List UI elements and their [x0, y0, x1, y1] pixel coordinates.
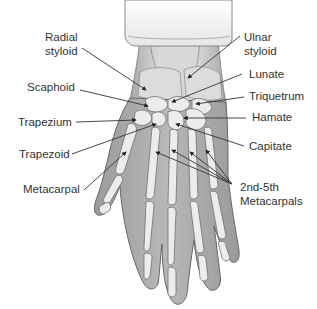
trapezium-bone — [134, 110, 152, 125]
label-triquetrum: Triquetrum — [249, 89, 304, 103]
label-ulnar-styloid: Ulnar styloid — [244, 30, 277, 58]
label-scaphoid: Scaphoid — [27, 80, 75, 94]
label-2nd-5th-metacarpals: 2nd-5th Metacarpals — [240, 180, 303, 208]
label-metacarpals-line1: 2nd-5th — [240, 180, 303, 194]
hand-anatomy-diagram: Radial styloid Scaphoid Trapezium Trapez… — [0, 0, 317, 309]
capitate-bone — [168, 110, 184, 129]
label-ulnar-styloid-line2: styloid — [244, 44, 277, 58]
label-radial-styloid-line1: Radial — [45, 30, 78, 44]
label-hamate: Hamate — [252, 110, 292, 124]
label-radial-styloid-line2: styloid — [45, 44, 78, 58]
label-capitate: Capitate — [249, 139, 292, 153]
label-trapezium: Trapezium — [18, 115, 72, 129]
label-metacarpals-line2: Metacarpals — [240, 194, 303, 208]
label-metacarpal: Metacarpal — [23, 182, 80, 196]
label-radial-styloid: Radial styloid — [45, 30, 78, 58]
label-ulnar-styloid-line1: Ulnar — [244, 30, 277, 44]
label-trapezoid: Trapezoid — [19, 147, 70, 161]
label-lunate: Lunate — [249, 67, 284, 81]
trapezoid-bone — [152, 112, 166, 126]
forearm — [130, 38, 226, 104]
sleeve-cuff — [125, 0, 232, 46]
